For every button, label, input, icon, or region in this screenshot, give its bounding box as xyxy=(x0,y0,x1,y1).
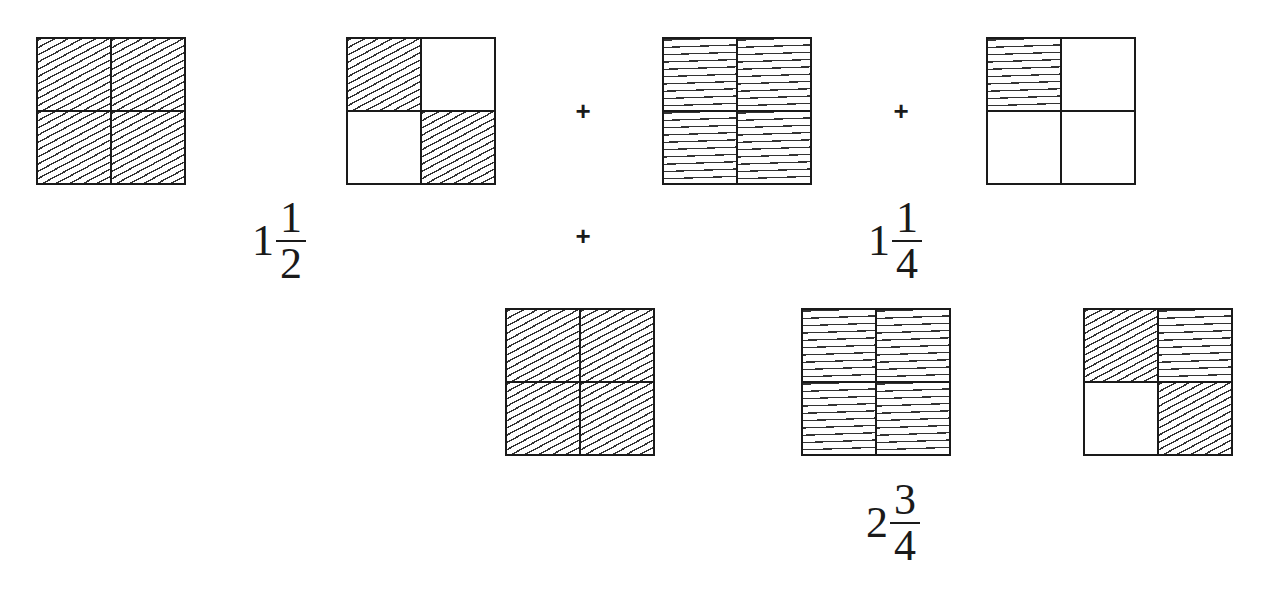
quarter-cell-diag xyxy=(111,111,184,183)
label-first-addend: 112 xyxy=(252,198,306,284)
quarter-cell-horiz xyxy=(664,39,737,111)
quarter-cell-horiz xyxy=(737,111,810,183)
quarter-cell-horiz xyxy=(737,39,810,111)
quarter-cell-diag xyxy=(421,111,494,183)
numerator: 3 xyxy=(894,480,916,520)
denominator: 2 xyxy=(280,244,302,284)
area-model-square xyxy=(505,308,655,456)
label-second-addend: 114 xyxy=(868,198,922,284)
area-model-square xyxy=(346,37,496,185)
quarter-cell-diag xyxy=(580,382,653,454)
fraction: 14 xyxy=(892,198,922,284)
area-model-square xyxy=(801,308,951,456)
quarter-cell-horiz xyxy=(803,310,876,382)
quarter-cell-horiz xyxy=(664,111,737,183)
plus-sign: + xyxy=(570,223,596,249)
denominator: 4 xyxy=(896,244,918,284)
quarter-cell-empty xyxy=(421,39,494,111)
quarter-cell-diag xyxy=(1158,382,1231,454)
whole-number: 1 xyxy=(868,219,890,263)
quarter-cell-empty xyxy=(1061,39,1134,111)
whole-number: 2 xyxy=(866,501,888,545)
quarter-cell-horiz xyxy=(876,382,949,454)
fraction: 34 xyxy=(890,480,920,566)
area-model-square xyxy=(986,37,1136,185)
quarter-cell-horiz xyxy=(988,39,1061,111)
quarter-cell-horiz xyxy=(1158,310,1231,382)
quarter-cell-empty xyxy=(348,111,421,183)
area-model-square xyxy=(36,37,186,185)
quarter-cell-empty xyxy=(1061,111,1134,183)
quarter-cell-horiz xyxy=(803,382,876,454)
whole-number: 1 xyxy=(252,219,274,263)
plus-sign: + xyxy=(888,98,914,124)
quarter-cell-diag xyxy=(1085,310,1158,382)
quarter-cell-diag xyxy=(38,39,111,111)
quarter-cell-diag xyxy=(348,39,421,111)
quarter-cell-diag xyxy=(38,111,111,183)
area-model-square xyxy=(1083,308,1233,456)
denominator: 4 xyxy=(894,526,916,566)
quarter-cell-diag xyxy=(507,382,580,454)
quarter-cell-diag xyxy=(580,310,653,382)
label-sum: 234 xyxy=(866,480,920,566)
numerator: 1 xyxy=(896,198,918,238)
quarter-cell-horiz xyxy=(876,310,949,382)
quarter-cell-empty xyxy=(1085,382,1158,454)
quarter-cell-diag xyxy=(111,39,184,111)
fraction: 12 xyxy=(276,198,306,284)
quarter-cell-diag xyxy=(507,310,580,382)
area-model-square xyxy=(662,37,812,185)
quarter-cell-empty xyxy=(988,111,1061,183)
numerator: 1 xyxy=(280,198,302,238)
plus-sign: + xyxy=(570,98,596,124)
